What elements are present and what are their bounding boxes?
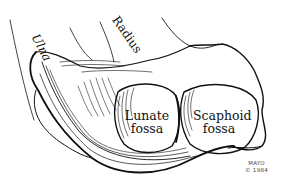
label-lunate-fossa: Lunate fossa [124,110,170,135]
line-drawing [0,0,285,187]
label-scaphoid-fossa: Scaphoid fossa [193,110,245,135]
credit-line2: © 1984 [245,167,268,174]
anatomical-illustration: Ulna Radius Lunate fossa Scaphoid fossa … [0,0,285,187]
label-lunate-line2: fossa [124,123,170,136]
credit-line1: MAYO [245,160,268,167]
copyright-credit: MAYO © 1984 [245,160,268,174]
label-scaphoid-line2: fossa [193,123,245,136]
